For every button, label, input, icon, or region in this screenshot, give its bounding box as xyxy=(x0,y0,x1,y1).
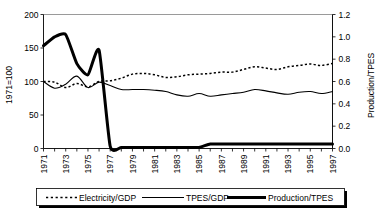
x-tick-label: 1995 xyxy=(305,154,315,173)
left-axis-tick-labels: 050100150200 xyxy=(24,10,38,154)
x-tick-label: 1971 xyxy=(39,154,49,173)
x-tick-label: 1985 xyxy=(194,154,204,173)
legend-label-production-tpes: Production/TPES xyxy=(268,193,334,203)
left-tick-label: 0 xyxy=(34,144,39,154)
legend-label-tpes-gdp: TPES/GDP xyxy=(186,193,229,203)
right-tick-label: 0.4 xyxy=(339,99,351,109)
y2-axis-title: Production/TPES xyxy=(366,52,376,118)
x-tick-label: 1979 xyxy=(128,154,138,173)
left-tick-label: 150 xyxy=(24,43,38,53)
data-series-group xyxy=(44,34,333,151)
right-tick-label: 1.0 xyxy=(339,32,351,42)
right-tick-label: 0.2 xyxy=(339,121,351,131)
x-tick-label: 1981 xyxy=(150,154,160,173)
right-tick-label: 0.6 xyxy=(339,77,351,87)
right-tick-label: 1.2 xyxy=(339,10,351,20)
y-axis-title: 1971=100 xyxy=(4,66,14,104)
right-axis-tick-labels: 0.00.20.40.60.81.01.2 xyxy=(339,10,351,154)
x-tick-label: 1989 xyxy=(239,154,249,173)
left-tick-label: 50 xyxy=(29,110,39,120)
series-line-production-tpes xyxy=(44,34,333,151)
chart-container: 050100150200 0.00.20.40.60.81.01.2 19711… xyxy=(0,0,382,219)
right-axis-ticks xyxy=(333,15,336,149)
chart-legend: Electricity/GDP TPES/GDP Production/TPES xyxy=(37,189,348,209)
left-tick-label: 100 xyxy=(24,77,38,87)
legend-label-electricity-gdp: Electricity/GDP xyxy=(79,193,136,203)
x-tick-label: 1987 xyxy=(217,154,227,173)
x-tick-label: 1975 xyxy=(83,154,93,173)
x-tick-label: 1973 xyxy=(61,154,71,173)
x-axis-tick-labels: 1971197319751977197919811983198519871989… xyxy=(39,154,338,173)
x-tick-label: 1993 xyxy=(283,154,293,173)
x-tick-label: 1977 xyxy=(105,154,115,173)
right-tick-label: 0.0 xyxy=(339,144,351,154)
x-tick-label: 1997 xyxy=(328,154,338,173)
x-tick-label: 1991 xyxy=(261,154,271,173)
right-tick-label: 0.8 xyxy=(339,54,351,64)
x-tick-label: 1983 xyxy=(172,154,182,173)
plot-frame xyxy=(44,15,333,149)
left-tick-label: 200 xyxy=(24,10,38,20)
line-chart: 050100150200 0.00.20.40.60.81.01.2 19711… xyxy=(0,0,382,219)
